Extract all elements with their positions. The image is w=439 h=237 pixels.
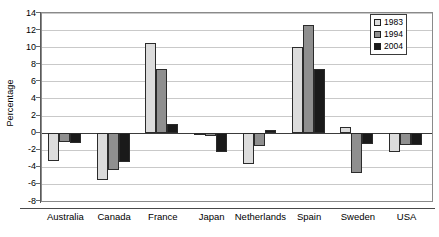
bar-australia-1983 [48, 133, 59, 161]
y-axis-tick-label: 0 [16, 128, 36, 137]
legend-swatch-1983 [374, 19, 381, 26]
legend-item-1994: 1994 [374, 29, 403, 40]
bar-japan-2004 [216, 133, 227, 153]
x-axis-tick-label: Netherlands [235, 212, 286, 222]
x-axis-tick-label: Canada [97, 212, 130, 222]
y-axis-tick-label: 8 [16, 59, 36, 68]
bar-france-1994 [156, 69, 167, 132]
bar-canada-2004 [119, 133, 130, 162]
bar-usa-2004 [411, 133, 422, 146]
bar-spain-1994 [303, 25, 314, 133]
y-axis-tick-label: 4 [16, 93, 36, 102]
y-axis-tick-label: 2 [16, 111, 36, 120]
x-axis-tick-label: France [148, 212, 178, 222]
x-axis-tick-label: Sweden [341, 212, 375, 222]
bar-spain-1983 [292, 47, 303, 132]
bar-france-1983 [145, 43, 156, 133]
chart-legend: 198319942004 [370, 14, 407, 55]
legend-item-2004: 2004 [374, 41, 403, 52]
bar-canada-1983 [97, 133, 108, 180]
y-axis-tick-label: -4 [16, 162, 36, 171]
y-axis-tick-label: -6 [16, 179, 36, 188]
bar-usa-1983 [389, 133, 400, 153]
legend-swatch-1994 [374, 31, 381, 38]
y-axis-tick-label: -2 [16, 145, 36, 154]
gridline [42, 201, 432, 202]
bar-chart: Percentage 14121086420-2-4-6-8 Australia… [0, 0, 439, 237]
bar-france-2004 [167, 124, 178, 133]
legend-label: 2004 [384, 42, 403, 51]
x-axis-tick-label: Australia [47, 212, 84, 222]
bar-japan-1994 [205, 133, 216, 136]
bar-sweden-2004 [362, 133, 373, 144]
legend-label: 1983 [384, 18, 403, 27]
bar-japan-1983 [194, 133, 205, 135]
bar-canada-1994 [108, 133, 119, 171]
x-axis-line [20, 208, 435, 209]
legend-item-1983: 1983 [374, 17, 403, 28]
bar-australia-1994 [59, 133, 70, 142]
y-axis-tick-label: 12 [16, 25, 36, 34]
bar-netherlands-2004 [265, 130, 276, 133]
gridline [42, 81, 432, 82]
y-axis-tick-label: 14 [16, 8, 36, 17]
legend-label: 1994 [384, 30, 403, 39]
y-axis-tick-label: 10 [16, 42, 36, 51]
x-axis-tick-label: USA [397, 212, 417, 222]
x-axis-tick-label: Japan [199, 212, 225, 222]
bar-spain-2004 [314, 69, 325, 132]
bar-sweden-1983 [340, 127, 351, 133]
x-axis-tick-labels: AustraliaCanadaFranceJapanNetherlandsSpa… [41, 212, 433, 234]
gridline [42, 116, 432, 117]
gridline [42, 98, 432, 99]
bar-netherlands-1983 [243, 133, 254, 165]
bar-netherlands-1994 [254, 133, 265, 147]
x-axis-tick-label: Spain [297, 212, 321, 222]
y-axis-tick-labels: 14121086420-2-4-6-8 [12, 12, 36, 202]
y-axis-tick-label: -8 [16, 196, 36, 205]
bar-australia-2004 [70, 133, 81, 143]
bar-usa-1994 [400, 133, 411, 146]
bar-sweden-1994 [351, 133, 362, 173]
gridline [42, 64, 432, 65]
gridline [42, 184, 432, 185]
legend-swatch-2004 [374, 43, 381, 50]
y-axis-tick-label: 6 [16, 76, 36, 85]
